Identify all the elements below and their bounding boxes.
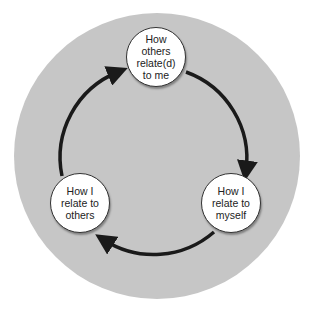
node-relate-to-others: How I relate to others (50, 173, 110, 233)
node-others-relate-to-me: How others relate(d) to me (126, 27, 186, 87)
node-label: How others relate(d) to me (136, 33, 175, 81)
node-relate-to-myself: How I relate to myself (201, 173, 261, 233)
node-label: How I relate to myself (212, 185, 250, 221)
node-label: How I relate to others (61, 185, 99, 221)
